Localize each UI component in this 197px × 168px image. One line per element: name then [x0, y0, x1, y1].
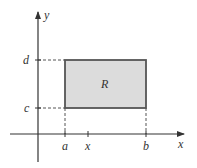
tick-label-x: x: [84, 139, 91, 153]
tick-label-c: c: [24, 101, 30, 115]
axis-label-y: y: [43, 8, 50, 22]
region-diagram: y x d c a x b R: [0, 0, 197, 168]
tick-label-d: d: [23, 53, 30, 67]
region-label: R: [100, 77, 109, 91]
tick-label-a: a: [62, 139, 68, 153]
tick-label-b: b: [143, 139, 149, 153]
axis-label-x: x: [177, 137, 184, 151]
